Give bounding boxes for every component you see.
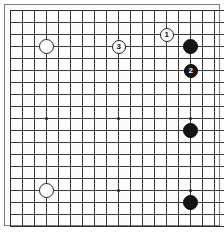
stone-move-number: 1 (164, 31, 168, 39)
stone-white-upper-left[interactable] (39, 39, 54, 54)
stone-white-lower-left[interactable] (39, 183, 54, 198)
grid-line-horizontal (10, 226, 224, 227)
stones-layer[interactable]: 312 (4, 4, 220, 226)
stone-black-upper-right[interactable] (183, 39, 198, 54)
stone-black-move-2[interactable]: 2 (184, 64, 198, 78)
stone-black-right-middle[interactable] (183, 123, 198, 138)
stone-white-move-1[interactable]: 1 (160, 28, 174, 42)
stone-move-number: 3 (116, 43, 120, 51)
go-board-diagram: 312 (0, 0, 224, 232)
stone-move-number: 2 (188, 67, 192, 75)
goban[interactable]: 312 (4, 4, 220, 226)
stone-white-move-3[interactable]: 3 (112, 40, 126, 54)
stone-black-lower-right[interactable] (183, 195, 198, 210)
